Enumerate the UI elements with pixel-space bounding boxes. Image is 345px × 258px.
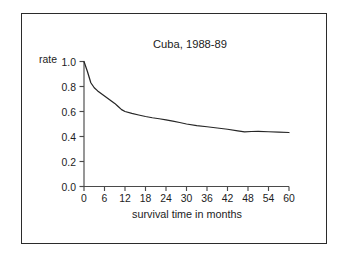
x-axis-label: survival time in months xyxy=(132,208,242,220)
y-tick-label-1.0: 1.0 xyxy=(62,57,77,68)
survival-rate-curve xyxy=(84,62,289,133)
x-tick-label-42: 42 xyxy=(222,193,234,204)
y-tick-label-0.8: 0.8 xyxy=(62,82,77,93)
chart-title-group: Cuba, 1988-89 xyxy=(153,38,227,50)
x-tick-label-60: 60 xyxy=(283,193,295,204)
x-tick-label-54: 54 xyxy=(263,193,275,204)
x-tick-label-24: 24 xyxy=(160,193,172,204)
y-axis: 1.0 0.8 0.6 0.4 0.2 0.0 xyxy=(62,57,84,193)
y-axis-label: rate xyxy=(39,54,57,65)
x-tick-label-48: 48 xyxy=(242,193,254,204)
x-tick-label-12: 12 xyxy=(119,193,131,204)
y-tick-label-0.2: 0.2 xyxy=(62,157,77,168)
x-tick-label-30: 30 xyxy=(181,193,193,204)
y-tick-label-0.4: 0.4 xyxy=(62,132,77,143)
x-tick-label-18: 18 xyxy=(140,193,152,204)
x-tick-label-0: 0 xyxy=(81,193,87,204)
y-tick-label-0.6: 0.6 xyxy=(62,107,77,118)
chart-title: Cuba, 1988-89 xyxy=(153,38,227,50)
x-axis: 0 6 12 18 24 30 36 42 48 54 60 xyxy=(81,187,295,205)
data-series-group xyxy=(84,62,289,133)
y-axis-name-group: rate xyxy=(39,54,57,65)
x-axis-title-group: survival time in months xyxy=(132,208,242,220)
figure-root: Cuba, 1988-89 rate 1.0 0.8 0.6 0.4 0.2 0… xyxy=(0,0,345,258)
survival-rate-chart: Cuba, 1988-89 rate 1.0 0.8 0.6 0.4 0.2 0… xyxy=(0,0,345,258)
x-tick-label-36: 36 xyxy=(201,193,213,204)
x-tick-label-6: 6 xyxy=(102,193,108,204)
y-tick-label-0.0: 0.0 xyxy=(62,182,77,193)
